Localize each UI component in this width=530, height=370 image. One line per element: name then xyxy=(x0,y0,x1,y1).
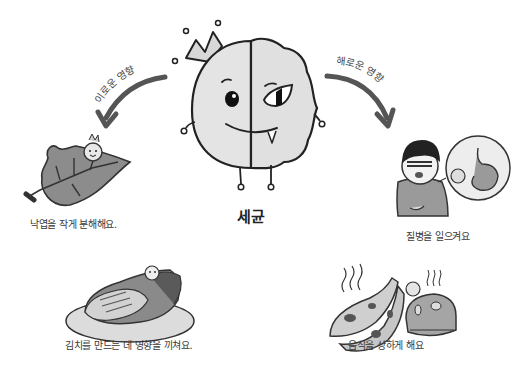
sick-boy-stomach-icon xyxy=(397,136,510,216)
caption-kimchi: 김치를 만드는 데 영향을 끼쳐요. xyxy=(65,337,193,352)
beneficial-arrow xyxy=(98,68,165,126)
leaf-icon xyxy=(26,134,130,205)
harmful-arrow xyxy=(327,64,393,126)
bacteria-character xyxy=(173,21,325,190)
caption-spoil-food: 음식을 상하게 해요 xyxy=(348,337,423,352)
center-title: 세균 xyxy=(237,205,265,226)
kimchi-cabbage-icon xyxy=(66,266,194,342)
illustration-canvas: 이로운 영향 해로운 영향 xyxy=(0,0,530,370)
caption-leaf-decompose: 낙엽을 작게 분해해요. xyxy=(30,216,117,231)
caption-disease: 질병을 일으켜요 xyxy=(406,228,470,243)
beneficial-arrow-label: 이로운 영향 xyxy=(93,64,137,104)
